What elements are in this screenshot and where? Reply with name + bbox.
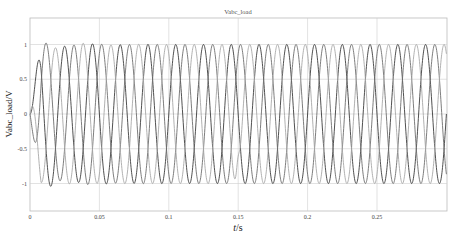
x-tick-label: 0.25	[372, 214, 383, 220]
x-tick-label: 0.1	[165, 214, 173, 220]
x-axis-ticks: 00.050.10.150.20.25	[29, 214, 383, 220]
x-axis-label: t/s	[233, 222, 243, 233]
x-tick-label: 0.05	[94, 214, 105, 220]
y-tick-label: 0	[24, 111, 27, 117]
x-tick-label: 0.2	[304, 214, 312, 220]
x-tick-label: 0	[29, 214, 32, 220]
line-chart: 10.50-0.5-1 00.050.10.150.20.25 Vabc_loa…	[0, 0, 460, 240]
y-axis-label: Vabc_load/V	[4, 90, 14, 137]
y-axis-ticks: 10.50-0.5-1	[18, 42, 28, 187]
y-tick-label: -0.5	[18, 146, 28, 152]
y-tick-label: 1	[24, 42, 27, 48]
x-tick-label: 0.15	[233, 214, 244, 220]
chart-figure: 10.50-0.5-1 00.050.10.150.20.25 Vabc_loa…	[0, 0, 460, 240]
y-tick-label: -1	[22, 181, 27, 187]
chart-title: Vabc_load	[224, 8, 252, 15]
y-tick-label: 0.5	[20, 76, 28, 82]
